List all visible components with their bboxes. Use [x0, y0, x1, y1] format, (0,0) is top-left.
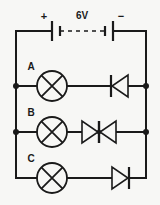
battery-negative-label: −: [118, 10, 124, 22]
branch-b: [13, 117, 149, 147]
diode-b1: [82, 121, 99, 143]
branch-b-label: B: [27, 107, 34, 118]
diode-a1: [111, 75, 128, 97]
branch-a-label: A: [27, 61, 34, 72]
diode-b1-triangle: [82, 121, 98, 143]
node-right-a: [143, 83, 149, 89]
circuit-diagram: + 6V − A: [0, 0, 160, 205]
lamp-a: [37, 71, 67, 101]
branch-c-label: C: [27, 153, 34, 164]
node-right-b: [143, 129, 149, 135]
node-left-a: [13, 83, 19, 89]
branch-a: [13, 71, 149, 101]
diode-a1-triangle: [112, 75, 128, 97]
diode-b2-triangle: [100, 121, 116, 143]
lamp-c: [37, 163, 67, 193]
node-between-b-diodes: [97, 130, 102, 135]
battery-voltage-label: 6V: [76, 10, 89, 21]
lamp-b: [37, 117, 67, 147]
circuit-wires: [16, 31, 146, 178]
circuit-canvas: + 6V − A: [0, 0, 160, 205]
diode-b2: [99, 121, 116, 143]
node-left-b: [13, 129, 19, 135]
diode-c1: [112, 167, 129, 189]
battery-positive-label: +: [41, 10, 47, 22]
battery-symbol: [52, 21, 113, 41]
diode-c1-triangle: [112, 167, 128, 189]
